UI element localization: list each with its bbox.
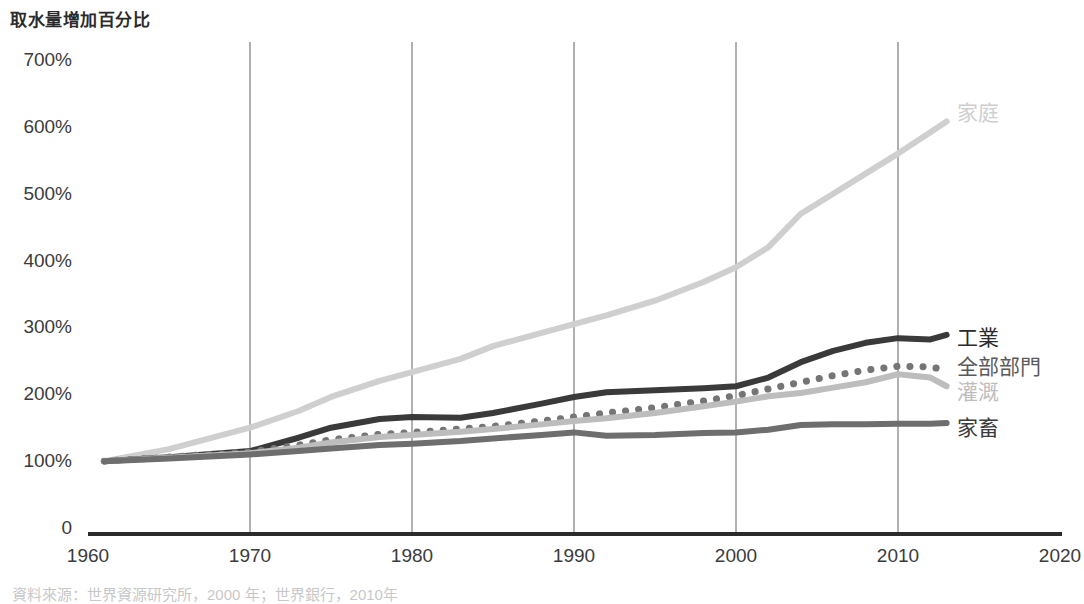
y-tick-0: 0 [0, 517, 72, 539]
x-tick-1990: 1990 [534, 545, 614, 567]
y-tick-500%: 500% [0, 183, 72, 205]
x-tick-2000: 2000 [696, 545, 776, 567]
y-tick-700%: 700% [0, 49, 72, 71]
y-tick-300%: 300% [0, 316, 72, 338]
x-tick-1960: 1960 [48, 545, 128, 567]
series-line-1 [104, 335, 946, 461]
series-paths-group [104, 122, 946, 462]
x-tick-2020: 2020 [1020, 545, 1084, 567]
series-line-3 [104, 374, 946, 461]
series-label-工業: 工業 [957, 321, 999, 351]
x-tick-1970: 1970 [210, 545, 290, 567]
series-line-2 [104, 366, 946, 461]
series-label-灌溉: 灌溉 [957, 375, 999, 405]
series-label-家畜: 家畜 [957, 411, 999, 441]
y-tick-400%: 400% [0, 250, 72, 272]
y-tick-100%: 100% [0, 450, 72, 472]
gridlines-group [250, 42, 898, 534]
series-label-家庭: 家庭 [957, 96, 999, 126]
y-tick-200%: 200% [0, 383, 72, 405]
y-tick-600%: 600% [0, 116, 72, 138]
source-note: 資料來源：世界資源研究所，2000 年；世界銀行，2010年 [12, 583, 398, 604]
x-tick-1980: 1980 [372, 545, 452, 567]
series-line-0 [104, 122, 946, 462]
x-tick-2010: 2010 [858, 545, 938, 567]
